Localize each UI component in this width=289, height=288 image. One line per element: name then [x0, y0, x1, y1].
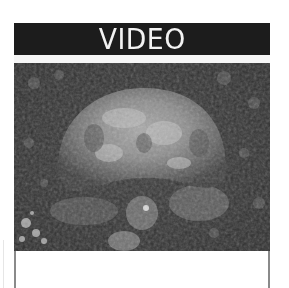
- video-thumbnail[interactable]: [14, 63, 270, 251]
- page-edge-divider: [3, 240, 4, 288]
- video-card-title: VIDEO: [99, 23, 186, 55]
- header-separator: [14, 55, 270, 63]
- tortoise-image: [14, 63, 270, 251]
- caption-box: [14, 251, 270, 288]
- video-card-header: VIDEO: [14, 23, 270, 55]
- video-card: VIDEO: [14, 23, 270, 288]
